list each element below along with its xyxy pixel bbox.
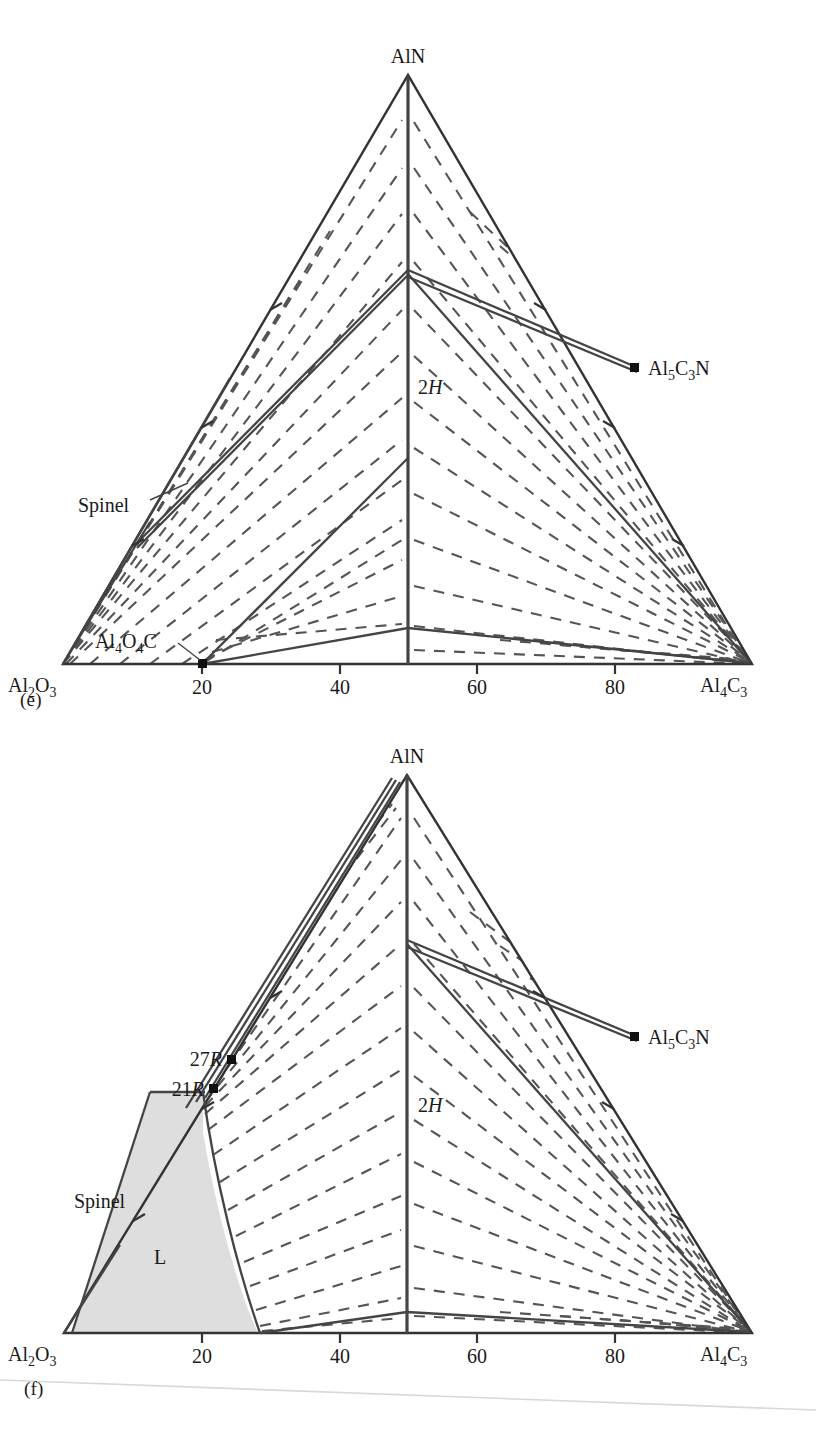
al4o4c-c-e: C bbox=[143, 630, 156, 652]
axis-tick-label-80-f: 80 bbox=[605, 1345, 625, 1367]
svg-text:2H: 2H bbox=[418, 376, 444, 398]
panel-caption-f: (f) bbox=[24, 1378, 44, 1400]
al5c3n-point-marker-e bbox=[630, 363, 639, 372]
al4c3-sub4-e: 4 bbox=[720, 685, 727, 700]
two-h-italic-f: H bbox=[427, 1094, 444, 1116]
al4o4c-leader-line-e bbox=[178, 643, 200, 660]
al5c3n-point-marker-f bbox=[630, 1032, 639, 1041]
al4c3-sub3-f: 3 bbox=[740, 1354, 747, 1369]
phase-label-21r-f: 21R bbox=[172, 1078, 204, 1100]
ternary-diagram-e-svg: AlN Al2O3 Al4C3 20 40 60 80 Spinel 2H bbox=[0, 0, 816, 730]
axis-tick-label-80-e: 80 bbox=[605, 676, 625, 698]
al5c3n-s2-e: 3 bbox=[688, 368, 695, 383]
al4c3-sub4-f: 4 bbox=[720, 1354, 727, 1369]
phase-diagram-panel-e: AlN Al2O3 Al4C3 20 40 60 80 Spinel 2H bbox=[0, 0, 816, 730]
al2o3-sub3-e: 3 bbox=[49, 685, 56, 700]
axis-tick-label-20-f: 20 bbox=[192, 1345, 212, 1367]
al5c3n-c-f: N bbox=[695, 1026, 709, 1048]
svg-text:Al4C3: Al4C3 bbox=[700, 674, 747, 700]
axis-tick-label-20-e: 20 bbox=[192, 676, 212, 698]
phase-label-spinel-e: Spinel bbox=[78, 494, 130, 517]
svg-text:2H: 2H bbox=[418, 1094, 444, 1116]
twentyseven-r-point-marker-f bbox=[227, 1055, 236, 1064]
twentyseven-r-italic-f: R bbox=[209, 1048, 222, 1070]
al4c3-sub3-e: 3 bbox=[740, 685, 747, 700]
two-h-italic-e: H bbox=[427, 376, 444, 398]
al4o4c-a-e: Al bbox=[95, 630, 115, 652]
al4o4c-b-e: O bbox=[122, 630, 136, 652]
vertex-label-al4c3-e: Al4C3 bbox=[700, 674, 747, 700]
phase-label-2h-f: 2H bbox=[418, 1094, 444, 1116]
axis-tick-label-60-e: 60 bbox=[467, 676, 487, 698]
twentyone-r-prefix-f: 21 bbox=[172, 1078, 192, 1100]
vertex-label-al2o3-f: Al2O3 bbox=[8, 1343, 56, 1369]
two-h-prefix-e: 2 bbox=[418, 376, 428, 398]
al4c3-al-f: Al bbox=[700, 1343, 720, 1365]
twentyone-r-italic-f: R bbox=[191, 1078, 204, 1100]
axis-tick-label-40-e: 40 bbox=[330, 676, 350, 698]
al5c3n-a-e: Al bbox=[648, 357, 668, 379]
al5c3n-s1-e: 5 bbox=[668, 368, 675, 383]
ternary-diagram-f-svg: AlN Al2O3 Al4C3 20 40 60 80 27R bbox=[0, 700, 816, 1449]
al5c3n-s2-f: 3 bbox=[688, 1037, 695, 1052]
phase-label-al4o4c-e: Al4O4C bbox=[95, 630, 157, 656]
figure-page: AlN Al2O3 Al4C3 20 40 60 80 Spinel 2H bbox=[0, 0, 816, 1449]
al2o3-sub2-f: 2 bbox=[28, 1354, 35, 1369]
al5c3n-a-f: Al bbox=[648, 1026, 668, 1048]
svg-text:Al4O4C: Al4O4C bbox=[95, 630, 157, 656]
al5c3n-c-e: N bbox=[695, 357, 709, 379]
al2o3-sub3-f: 3 bbox=[49, 1354, 56, 1369]
twentyseven-r-prefix-f: 27 bbox=[190, 1048, 210, 1070]
al5c3n-b-e: C bbox=[675, 357, 688, 379]
two-h-prefix-f: 2 bbox=[418, 1094, 428, 1116]
al4o4c-s1-e: 4 bbox=[115, 641, 122, 656]
svg-text:21R: 21R bbox=[172, 1078, 204, 1100]
phase-label-spinel-f: Spinel bbox=[74, 1190, 126, 1213]
liquid-region-fill-f bbox=[72, 1092, 258, 1333]
phase-label-liquid-f: L bbox=[154, 1246, 166, 1268]
svg-text:Al5C3N: Al5C3N bbox=[648, 357, 710, 383]
axis-tick-label-40-f: 40 bbox=[330, 1345, 350, 1367]
al4o4c-s2-e: 4 bbox=[136, 641, 143, 656]
svg-text:27R: 27R bbox=[190, 1048, 222, 1070]
phase-label-2h-e: 2H bbox=[418, 376, 444, 398]
al2o3-al-f: Al bbox=[8, 1343, 28, 1365]
al4c3-al-e: Al bbox=[700, 674, 720, 696]
al4c3-c-e: C bbox=[727, 674, 740, 696]
vertex-label-al4c3-f: Al4C3 bbox=[700, 1343, 747, 1369]
phase-label-27r-f: 27R bbox=[190, 1048, 222, 1070]
page-edge-artifact bbox=[0, 1380, 816, 1410]
phase-label-al5c3n-f: Al5C3N bbox=[648, 1026, 710, 1052]
svg-text:Al4C3: Al4C3 bbox=[700, 1343, 747, 1369]
vertex-label-aln-e: AlN bbox=[391, 45, 425, 67]
al4c3-c-f: C bbox=[727, 1343, 740, 1365]
axis-tick-label-60-f: 60 bbox=[467, 1345, 487, 1367]
al2o3-o-f: O bbox=[35, 1343, 49, 1365]
al5c3n-b-f: C bbox=[675, 1026, 688, 1048]
vertex-label-aln-f: AlN bbox=[390, 745, 424, 767]
al5c3n-s1-f: 5 bbox=[668, 1037, 675, 1052]
twentyone-r-point-marker-f bbox=[209, 1084, 218, 1093]
phase-diagram-panel-f: AlN Al2O3 Al4C3 20 40 60 80 27R bbox=[0, 700, 816, 1449]
svg-text:Al5C3N: Al5C3N bbox=[648, 1026, 710, 1052]
svg-text:Al2O3: Al2O3 bbox=[8, 1343, 56, 1369]
phase-label-al5c3n-e: Al5C3N bbox=[648, 357, 710, 383]
